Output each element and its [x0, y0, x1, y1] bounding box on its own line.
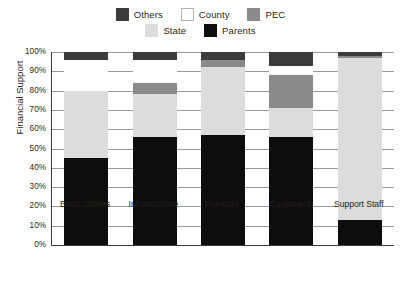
segment-county [269, 66, 313, 76]
segment-state [338, 58, 382, 220]
x-tick-furniture: Furniture [188, 199, 256, 209]
segment-state [201, 67, 245, 135]
axes [51, 52, 394, 246]
segment-pec [338, 56, 382, 58]
segment-state [64, 91, 108, 159]
y-tick-70: 70% [12, 106, 46, 114]
y-tick-30: 30% [12, 183, 46, 191]
bar-furniture [201, 52, 245, 245]
bars-layer [52, 52, 394, 245]
segment-state [133, 94, 177, 136]
bar-support-staff [338, 52, 382, 245]
y-tick-0: 0% [12, 241, 46, 249]
segment-county [133, 60, 177, 83]
segment-parents [201, 135, 245, 245]
segment-others [201, 52, 245, 60]
plot-area: Financial Support 0%10%20%30%40%50%60%70… [0, 0, 401, 282]
segment-pec [201, 60, 245, 68]
segment-pec [133, 83, 177, 95]
x-tick-basic-utilities: Basic Utilities [51, 199, 119, 209]
y-tick-90: 90% [12, 67, 46, 75]
y-tick-60: 60% [12, 125, 46, 133]
y-tick-10: 10% [12, 222, 46, 230]
bar-equipment [269, 52, 313, 245]
y-tick-20: 20% [12, 202, 46, 210]
segment-others [269, 52, 313, 66]
x-tick-infrastructure: Infrastructure [119, 199, 187, 209]
y-axis-ticks: 0%10%20%30%40%50%60%70%80%90%100% [12, 0, 46, 282]
segment-state [269, 108, 313, 137]
stacked-bar-chart: Others County PEC State Parents Financia… [0, 0, 401, 282]
x-tick-equipment: Equipment [256, 199, 324, 209]
y-tick-80: 80% [12, 87, 46, 95]
segment-parents [133, 137, 177, 245]
segment-others [338, 52, 382, 56]
segment-others [64, 52, 108, 60]
segment-county [64, 60, 108, 91]
segment-parents [338, 220, 382, 245]
segment-pec [269, 75, 313, 108]
bar-basic-utilities [64, 52, 108, 245]
y-tick-100: 100% [12, 48, 46, 56]
segment-parents [269, 137, 313, 245]
segment-others [133, 52, 177, 60]
bar-infrastructure [133, 52, 177, 245]
x-tick-support-staff: Support Staff [325, 199, 393, 209]
y-tick-40: 40% [12, 164, 46, 172]
y-tick-50: 50% [12, 145, 46, 153]
